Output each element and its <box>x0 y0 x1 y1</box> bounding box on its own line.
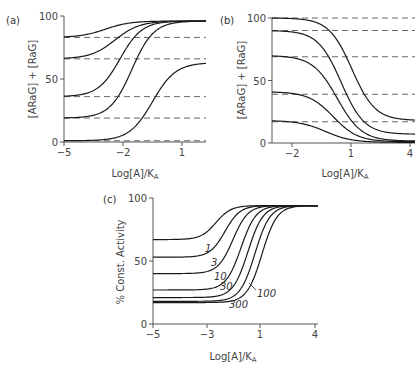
curve-curve5 <box>64 63 206 140</box>
panel-c-xlabel: Log[A]/KA <box>209 351 256 364</box>
y-tick-label: 50 <box>134 256 147 267</box>
y-tick-label: 50 <box>253 76 266 87</box>
curve-10 <box>153 206 318 290</box>
x-tick-label: 1 <box>257 329 263 340</box>
panel-a-label: (a) <box>6 15 20 26</box>
curve-curve4 <box>272 92 415 142</box>
curve-curve2 <box>64 21 206 58</box>
curve-30 <box>153 206 318 298</box>
x-tick-label: −5 <box>146 329 161 340</box>
x-tick-label: −2 <box>285 148 300 159</box>
curve-curve1 <box>272 18 415 120</box>
x-tick-label: −2 <box>116 147 131 158</box>
curve-1 <box>153 206 318 258</box>
panel-a: (a) 050100−5−21 [ARaG] + [RaG] Log[A]/KA <box>6 11 206 181</box>
curve-curve5 <box>272 121 415 142</box>
curve-label: 100 <box>257 288 276 299</box>
y-tick-label: 100 <box>39 11 58 22</box>
curve-100 <box>153 206 318 302</box>
panel-b-label: (b) <box>220 15 234 26</box>
x-tick-label: 4 <box>312 329 318 340</box>
curve-label: 300 <box>229 299 248 310</box>
curve-curve2 <box>272 31 415 134</box>
y-tick-label: 50 <box>45 74 58 85</box>
y-tick-label: 100 <box>247 13 266 24</box>
x-tick-label: 1 <box>348 148 354 159</box>
y-tick-label: 100 <box>128 193 147 204</box>
curve-curve3 <box>272 56 415 141</box>
curve-label: 3 <box>211 257 217 268</box>
y-tick-label: 0 <box>260 138 266 149</box>
curve-label: 30 <box>220 281 233 292</box>
x-tick-label: −3 <box>200 329 215 340</box>
panel-c-label: (c) <box>103 194 116 205</box>
curve-label: 1 <box>205 243 211 254</box>
panel-c: (c) 050100−5−314131030100300 % Const. Ac… <box>103 193 318 364</box>
panel-a-ylabel: [ARaG] + [RaG] <box>27 40 38 118</box>
panel-c-ylabel: % Const. Activity <box>115 219 126 304</box>
figure: (a) 050100−5−21 [ARaG] + [RaG] Log[A]/KA… <box>0 0 419 368</box>
panel-a-xlabel: Log[A]/KA <box>111 168 158 181</box>
x-tick-label: 1 <box>179 147 185 158</box>
curve-curve1 <box>64 21 206 37</box>
x-tick-label: −5 <box>57 147 72 158</box>
panel-b: (b) 050100−214 [ARaG] + [RaG] Log[A]/KA <box>220 13 415 181</box>
curve-300 <box>153 206 318 303</box>
panel-b-ylabel: [ARaG] + [RaG] <box>236 41 247 119</box>
x-tick-label: 4 <box>407 148 413 159</box>
panel-b-xlabel: Log[A]/KA <box>321 168 368 181</box>
